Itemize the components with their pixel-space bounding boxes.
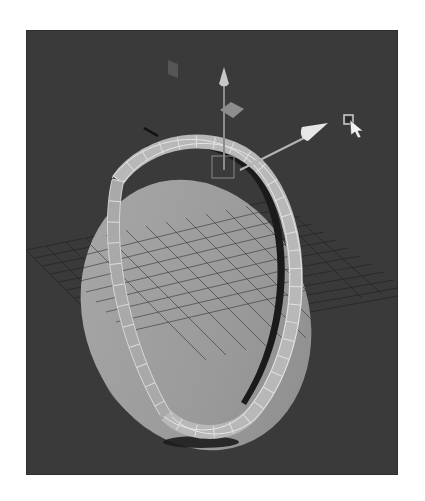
cursor-arrow-icon <box>350 120 363 138</box>
viewport-3d[interactable]: 3D perspective viewport <box>26 30 398 475</box>
x-axis-arrow-icon[interactable] <box>301 123 328 141</box>
mouse-cursor <box>344 115 363 138</box>
z-axis-handle[interactable] <box>144 128 158 136</box>
viewport-canvas[interactable] <box>26 30 398 475</box>
y-axis-arrow-icon[interactable] <box>219 67 229 87</box>
z-plane-handle-icon[interactable] <box>168 60 178 78</box>
